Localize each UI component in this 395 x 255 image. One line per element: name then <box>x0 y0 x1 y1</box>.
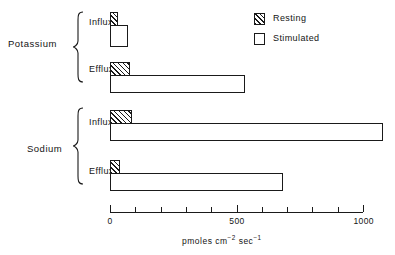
group-label-sodium: Sodium <box>27 143 62 154</box>
bar-stimulated-potassium-influx <box>110 25 128 47</box>
x-axis-title: pmoles cm−2 sec−1 <box>182 234 262 246</box>
bar-stimulated-sodium-influx <box>110 123 383 141</box>
legend-swatch-stimulated <box>254 33 265 45</box>
x-tick-600 <box>262 207 263 212</box>
legend-label-resting: Resting <box>273 13 306 23</box>
brace-potassium <box>72 11 84 83</box>
x-tick-800 <box>312 207 313 212</box>
x-tick-label-500: 500 <box>229 216 244 226</box>
x-tick-500 <box>237 205 238 212</box>
x-tick-0 <box>110 205 111 212</box>
x-tick-700 <box>287 207 288 212</box>
x-tick-900 <box>338 207 339 212</box>
x-tick-label-0: 0 <box>108 216 113 226</box>
x-tick-300 <box>186 207 187 212</box>
brace-sodium <box>72 107 84 185</box>
group-label-potassium: Potassium <box>8 38 57 49</box>
legend-swatch-resting <box>254 13 265 25</box>
x-tick-1000 <box>363 205 364 212</box>
bar-stimulated-sodium-efflux <box>110 173 283 191</box>
legend-label-stimulated: Stimulated <box>273 33 320 43</box>
x-axis-line <box>110 212 363 213</box>
chart-figure: Potassium Influx Efflux Sodium Influx Ef… <box>0 0 395 255</box>
bar-resting-sodium-influx <box>110 110 132 124</box>
bar-resting-sodium-efflux <box>110 160 120 174</box>
x-tick-200 <box>161 207 162 212</box>
x-tick-400 <box>211 207 212 212</box>
x-tick-label-1000: 1000 <box>353 216 374 226</box>
bar-stimulated-potassium-efflux <box>110 75 245 93</box>
x-tick-100 <box>135 207 136 212</box>
